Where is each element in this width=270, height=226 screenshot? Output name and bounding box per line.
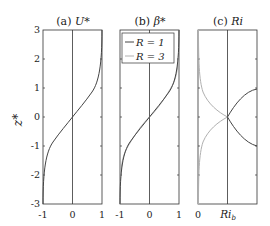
legend-label-r1: R = 1 xyxy=(135,37,165,48)
svg-text:0: 0 xyxy=(195,209,201,220)
svg-text:1: 1 xyxy=(34,82,40,93)
panel-a: (a) U* 3 2 1 0 -1 -2 -3 -1 0 1 xyxy=(31,15,105,220)
svg-text:1: 1 xyxy=(176,209,182,220)
rib-label: Rib xyxy=(219,208,236,222)
svg-text:0: 0 xyxy=(34,111,40,122)
svg-text:-1: -1 xyxy=(31,140,40,151)
svg-text:-2: -2 xyxy=(31,169,40,180)
figure: z* (a) U* 3 2 1 0 -1 -2 -3 -1 0 1 (b) β* xyxy=(0,0,270,226)
panel-c-curve-r1 xyxy=(228,89,258,146)
legend: R = 1 R = 3 xyxy=(122,33,174,63)
svg-text:0: 0 xyxy=(69,209,75,220)
svg-text:2: 2 xyxy=(34,53,40,64)
panel-c: (c) Ri 0 Rib xyxy=(195,15,257,222)
legend-label-r3: R = 3 xyxy=(135,51,165,62)
panel-c-title: (c) Ri xyxy=(213,15,243,28)
panel-a-xtick-labels: -1 0 1 xyxy=(38,209,105,220)
svg-text:0: 0 xyxy=(146,209,152,220)
svg-text:-3: -3 xyxy=(31,198,40,209)
svg-text:-1: -1 xyxy=(38,209,47,220)
y-axis-label: z* xyxy=(11,114,25,127)
svg-text:3: 3 xyxy=(34,24,40,35)
panel-b-title: (b) β* xyxy=(135,15,166,28)
panel-b: (b) β* -1 0 1 R = 1 R = 3 xyxy=(115,15,182,220)
panel-a-title: (a) U* xyxy=(56,15,90,28)
panel-c-xtick-labels: 0 Rib xyxy=(195,208,236,222)
svg-text:-1: -1 xyxy=(115,209,124,220)
panel-b-xtick-labels: -1 0 1 xyxy=(115,209,182,220)
panel-c-curve-r3 xyxy=(199,30,228,204)
svg-text:1: 1 xyxy=(99,209,105,220)
y-tick-labels: 3 2 1 0 -1 -2 -3 xyxy=(31,24,40,209)
